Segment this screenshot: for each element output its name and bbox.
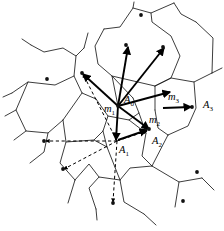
edge-path-6 — [31, 45, 84, 56]
label-A0-subscript: 0 — [130, 100, 134, 108]
site-hub-center-dot — [116, 104, 120, 108]
label-A1: A1 — [119, 145, 129, 156]
edge-path-41 — [14, 131, 26, 140]
site-hub-left-dot — [80, 71, 84, 75]
label-A3: A3 — [203, 100, 213, 111]
vector-m2-down-right — [118, 106, 149, 129]
edge-path-24 — [120, 166, 152, 214]
edge-path-29 — [103, 131, 107, 147]
site-lower-right-upper-dot — [195, 170, 199, 174]
edge-path-23 — [175, 182, 179, 207]
edge-path-38 — [22, 39, 31, 45]
edge-path-17 — [155, 73, 212, 86]
edge-path-34 — [144, 214, 156, 225]
vector-m1-down-left — [116, 106, 118, 140]
edge-path-40 — [3, 93, 12, 97]
site-a2-tip-dot — [147, 127, 151, 131]
edge-path-1 — [104, 2, 134, 29]
edge-path-3 — [151, 13, 180, 86]
site-lower-right-lower-dot — [181, 199, 185, 203]
label-m1-base: m — [104, 103, 112, 114]
site-right-a3-dot — [190, 105, 194, 109]
edge-path-2 — [133, 3, 174, 13]
edge-path-8 — [12, 76, 74, 93]
site-left-dot — [45, 77, 49, 81]
site-mid-left-dot — [42, 139, 46, 143]
site-lower-left-dot — [61, 167, 65, 171]
edge-path-32 — [30, 133, 48, 163]
edge-path-11 — [60, 120, 75, 180]
label-m3-subscript: 3 — [176, 97, 180, 105]
edge-path-4 — [174, 3, 196, 22]
label-m2-subscript: 2 — [157, 120, 161, 128]
label-A0: A0 — [124, 95, 134, 106]
edge-path-10 — [63, 93, 82, 120]
vector-A2 — [118, 130, 147, 140]
label-A1-subscript: 1 — [125, 150, 129, 158]
edge-path-22 — [152, 166, 202, 182]
edge-path-27 — [68, 180, 75, 203]
edge-path-26 — [75, 164, 99, 180]
edge-path-39 — [84, 33, 88, 48]
edge-path-5 — [95, 29, 112, 76]
edge-path-37 — [202, 178, 214, 190]
label-m1-subscript: 1 — [112, 109, 116, 117]
site-upper-center-dot — [124, 43, 128, 47]
dashed-A1-to-lower-left — [64, 141, 117, 169]
edge-path-36 — [212, 68, 222, 73]
label-m3: m3 — [168, 92, 179, 103]
figure-container: A0 A1 A2 A3 m1 m2 m3 — [0, 0, 224, 231]
label-m2-base: m — [149, 114, 157, 125]
label-A3-subscript: 3 — [209, 105, 213, 113]
edge-path-9 — [16, 82, 63, 133]
label-m2: m2 — [149, 115, 160, 126]
vector-A3 — [163, 107, 191, 108]
edge-path-25 — [89, 177, 120, 209]
label-m1: m1 — [104, 104, 115, 115]
edge-path-33 — [96, 209, 97, 220]
edge-path-31 — [5, 110, 16, 116]
site-top-center-dot — [139, 13, 143, 17]
label-A2-subscript: 2 — [158, 141, 162, 149]
label-A2: A2 — [152, 136, 162, 147]
label-m3-base: m — [168, 91, 176, 102]
edge-path-35 — [196, 22, 213, 73]
site-upper-right-dot — [161, 45, 165, 49]
site-lower-center-dot — [111, 201, 115, 205]
